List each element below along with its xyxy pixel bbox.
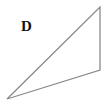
shape-label: D — [21, 19, 32, 34]
triangle-diagram — [0, 0, 108, 110]
